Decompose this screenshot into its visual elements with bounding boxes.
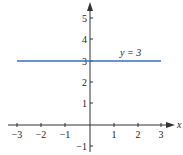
x-tick-label: −3 <box>12 129 23 140</box>
y-axis-arrow-icon <box>87 2 93 11</box>
y-tick-label: 2 <box>82 77 87 88</box>
y-tick-label: 5 <box>82 13 87 24</box>
x-axis-label: x <box>176 119 182 130</box>
y-tick-label: 1 <box>82 98 87 109</box>
y-tick-labels: 5 4 3 2 1 −1 <box>76 13 87 152</box>
x-tick-label: −2 <box>36 129 47 140</box>
y-tick-label: 4 <box>82 34 87 45</box>
x-tick-label: 3 <box>159 129 164 140</box>
x-axis-arrow-icon <box>166 122 175 128</box>
x-tick-label: 2 <box>136 129 141 140</box>
y-tick-label: −1 <box>76 141 87 152</box>
x-tick-label: −1 <box>60 129 71 140</box>
chart: x −3 −2 −1 1 2 3 5 4 3 2 1 −1 y = 3 <box>0 0 183 155</box>
x-tick-label: 1 <box>112 129 117 140</box>
x-tick-labels: −3 −2 −1 1 2 3 <box>12 129 164 140</box>
line-label: y = 3 <box>119 47 141 58</box>
